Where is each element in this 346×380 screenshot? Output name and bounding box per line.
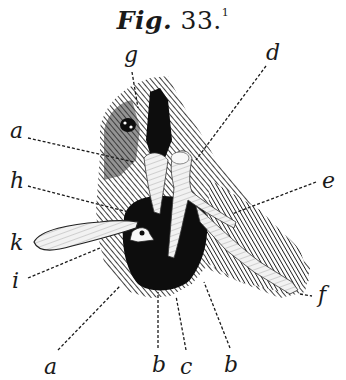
label-k: k — [10, 232, 23, 254]
label-g: g — [124, 44, 138, 66]
anatomical-illustration — [0, 0, 346, 380]
label-h: h — [10, 170, 24, 192]
leader-i — [28, 248, 100, 278]
label-b-left: b — [152, 354, 166, 376]
leader-b-right — [204, 282, 230, 348]
label-c: c — [180, 356, 192, 378]
label-e: e — [322, 170, 335, 192]
leader-a-bottom — [58, 286, 120, 350]
label-i: i — [12, 270, 19, 292]
label-a-top: a — [10, 120, 23, 142]
eye-spot — [120, 118, 136, 132]
leader-c — [176, 296, 186, 350]
leader-f — [300, 294, 312, 296]
label-d: d — [266, 42, 280, 64]
label-f: f — [318, 284, 326, 306]
label-b-right: b — [224, 354, 238, 376]
label-a-bottom: a — [44, 356, 57, 378]
